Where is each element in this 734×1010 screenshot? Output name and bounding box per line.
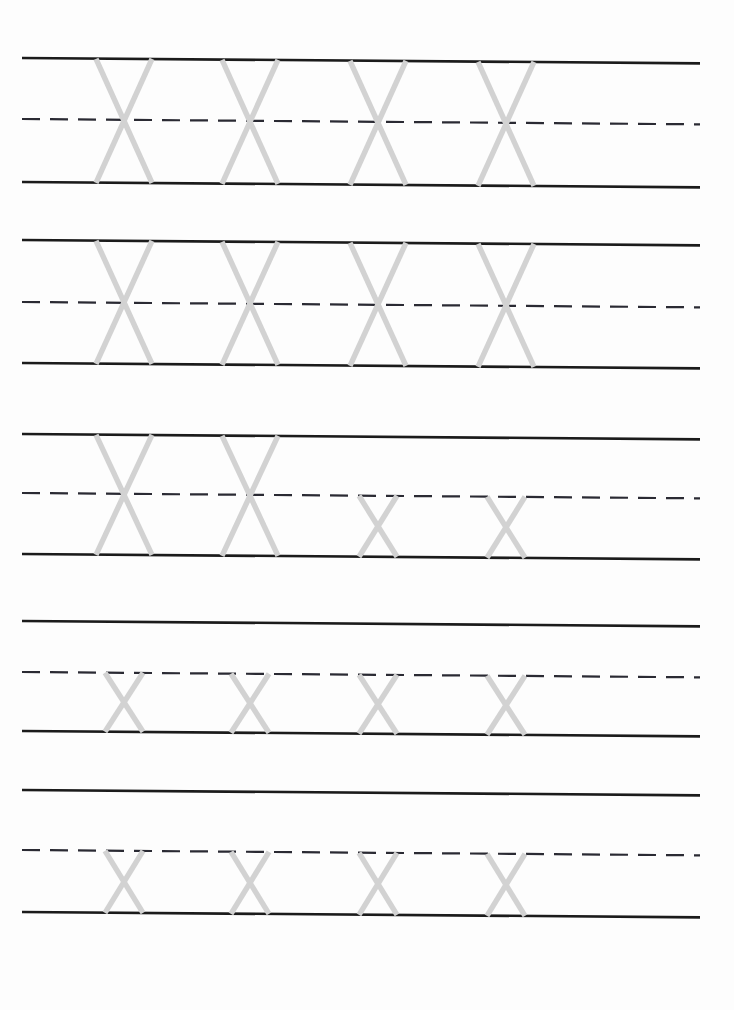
worksheet-canvas	[0, 0, 734, 1010]
trace-letter-x-3	[359, 853, 397, 915]
top-line	[22, 240, 700, 245]
top-line	[22, 434, 700, 439]
practice-row-5-letters	[105, 851, 525, 916]
trace-letter-x-2	[231, 674, 269, 733]
trace-letter-x-4	[487, 676, 525, 735]
trace-letter-x-3	[359, 496, 397, 557]
trace-letters-layer	[96, 59, 534, 916]
top-line	[22, 790, 700, 795]
baseline	[22, 182, 700, 187]
trace-letter-x-4	[478, 62, 534, 186]
trace-letter-x-4	[487, 497, 525, 558]
trace-letter-x-3	[359, 675, 397, 734]
baseline	[22, 363, 700, 368]
trace-letter-x-2	[222, 60, 278, 184]
practice-row-4-letters	[105, 673, 525, 735]
ruled-lines-layer	[22, 58, 700, 917]
worksheet-page	[0, 0, 734, 1010]
top-line	[22, 58, 700, 63]
trace-letter-x-1	[105, 673, 143, 732]
trace-letter-x-2	[222, 436, 278, 556]
trace-letter-x-4	[487, 854, 525, 916]
top-line	[22, 621, 700, 626]
trace-letter-x-2	[231, 852, 269, 914]
trace-letter-x-1	[105, 851, 143, 913]
